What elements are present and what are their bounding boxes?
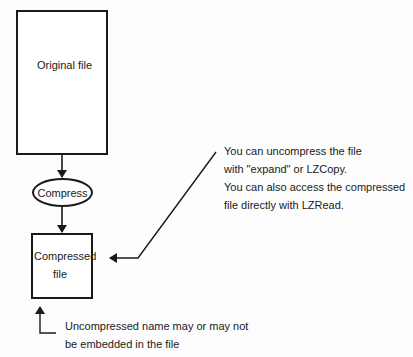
- arrow-note-to-compressed: [110, 152, 216, 258]
- original-file-label: Original file: [37, 56, 92, 74]
- compress-process: Compress: [32, 178, 93, 207]
- name-note-line: Uncompressed name may or may not: [65, 317, 248, 335]
- access-note-line: You can uncompress the file: [224, 142, 405, 160]
- compressed-file-label-line2: file: [53, 265, 67, 283]
- name-note-line: be embedded in the file: [65, 335, 248, 353]
- access-note-line: file directly with LZRead.: [224, 196, 405, 214]
- access-note-line: You can also access the compressed: [224, 178, 405, 196]
- compressed-file-label-line1: Compressed: [34, 247, 96, 265]
- access-note: You can uncompress the file with "expand…: [224, 142, 405, 214]
- original-file-box: Original file: [16, 10, 108, 155]
- access-note-line: with "expand" or LZCopy.: [224, 160, 405, 178]
- arrow-name-note-to-compressed: [40, 307, 56, 333]
- compressed-file-box: Compressed file: [31, 233, 93, 299]
- name-note: Uncompressed name may or may not be embe…: [65, 317, 248, 353]
- compress-label: Compress: [37, 187, 87, 199]
